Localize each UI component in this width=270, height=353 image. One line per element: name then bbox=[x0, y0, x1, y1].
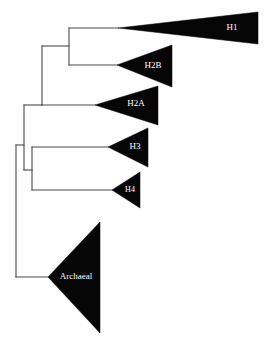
clade-label-H4: H4 bbox=[125, 185, 135, 194]
clade-label-H1: H1 bbox=[227, 22, 238, 32]
clade-label-H2A: H2A bbox=[127, 98, 145, 108]
clade-label-Archaeal: Archaeal bbox=[60, 271, 93, 281]
clade-label-H3: H3 bbox=[130, 141, 141, 151]
clade-wedge-H3[interactable] bbox=[108, 128, 148, 167]
branch-layer bbox=[16, 28, 118, 277]
phylogenetic-tree-figure: H1H2BH2AH3H4Archaeal bbox=[0, 0, 270, 353]
clade-label-H2B: H2B bbox=[144, 60, 161, 70]
tree-canvas: H1H2BH2AH3H4Archaeal bbox=[0, 0, 270, 353]
